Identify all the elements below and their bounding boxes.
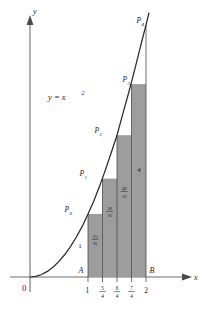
point-label-P4-base: P (135, 16, 141, 25)
point-label-P1-base: P (78, 169, 84, 178)
bar-height-label-36over16-numerator: 36 (107, 206, 112, 211)
y-axis-label: y (32, 7, 37, 16)
point-label-P3-base: P (121, 75, 127, 84)
x-tick-label-2: 2 (144, 286, 148, 295)
point-label-P2-base: P (93, 126, 99, 135)
point-label-P2: P 2 (93, 126, 102, 137)
x-tick-label-6over4-denominator: 4 (116, 293, 119, 299)
point-label-P4-sub: 4 (142, 22, 145, 27)
point-label-P0: P 0 (63, 205, 72, 216)
bar-height-label-25over16-numerator: 25 (93, 234, 98, 239)
x-axis-label: x (193, 273, 198, 282)
x-tick-label-7over4-numerator: 7 (130, 285, 133, 291)
x-tick-label-1: 1 (86, 286, 90, 295)
bar-rect-3 (117, 135, 132, 277)
bar-rect-4 (132, 84, 147, 277)
bar-height-label-25over16-denominator: 16 (93, 241, 98, 246)
x-axis-arrowhead (182, 274, 192, 281)
bar-height-label-49over16-numerator: 49 (122, 186, 127, 191)
x-tick-label-6over4-numerator: 6 (116, 285, 119, 291)
bar-height-label-49over16-denominator: 16 (122, 194, 127, 199)
curve-equation-label: y = x 2 (47, 90, 85, 102)
y-axis-arrowhead (27, 15, 34, 25)
point-label-P1: P 1 (78, 169, 87, 180)
interval-start-marker-A: A (78, 266, 84, 275)
x-tick-label-5over4-denominator: 4 (101, 293, 104, 299)
interval-end-marker-B: B (150, 266, 155, 275)
point-label-P0-base: P (63, 205, 69, 214)
x-tick-label-7over4-denominator: 4 (130, 293, 133, 299)
point-label-P3-sub: 3 (128, 81, 131, 86)
figure-canvas: y x 0 (0, 0, 208, 312)
point-label-P3: P 3 (121, 75, 130, 86)
point-label-P2-sub: 2 (100, 132, 103, 137)
bar-height-label-1: 1 (78, 242, 82, 250)
bar-height-label-36over16-denominator: 16 (107, 213, 112, 218)
bar-height-label-4: 4 (137, 166, 141, 174)
x-tick-label-7over4: 7 4 (128, 285, 134, 299)
riemann-sum-figure: y x 0 (0, 0, 208, 312)
origin-label: 0 (22, 283, 26, 293)
x-tick-label-5over4-numerator: 5 (101, 285, 104, 291)
point-label-P1-sub: 1 (85, 175, 88, 180)
curve-equation-text: y = x (47, 92, 66, 102)
curve-equation-exponent: 2 (82, 90, 85, 96)
bar-rect-2 (103, 179, 118, 277)
point-label-P0-sub: 0 (70, 211, 73, 216)
x-tick-label-5over4: 5 4 (99, 285, 105, 299)
x-tick-label-6over4: 6 4 (114, 285, 120, 299)
point-label-P4: P 4 (135, 16, 144, 27)
x-tick-marks (88, 277, 146, 282)
